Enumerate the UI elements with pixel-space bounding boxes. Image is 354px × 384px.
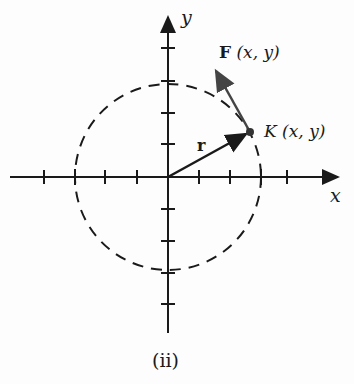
f-label: F (x, y) bbox=[219, 42, 280, 62]
r-vector bbox=[168, 134, 246, 177]
r-label: r bbox=[197, 136, 205, 155]
f-label-name: F bbox=[219, 42, 231, 62]
vector-field-diagram bbox=[0, 0, 354, 384]
caption: (ii) bbox=[152, 349, 179, 371]
k-label-args: (x, y) bbox=[282, 121, 325, 141]
f-label-args: (x, y) bbox=[236, 42, 279, 62]
point-k bbox=[246, 128, 254, 136]
y-axis-label: y bbox=[181, 6, 192, 28]
k-label-name: K bbox=[264, 121, 277, 141]
x-axis-label: x bbox=[330, 184, 341, 206]
k-label: K (x, y) bbox=[264, 121, 325, 141]
figure-ii: y x F (x, y) K (x, y) r (ii) bbox=[0, 0, 354, 384]
